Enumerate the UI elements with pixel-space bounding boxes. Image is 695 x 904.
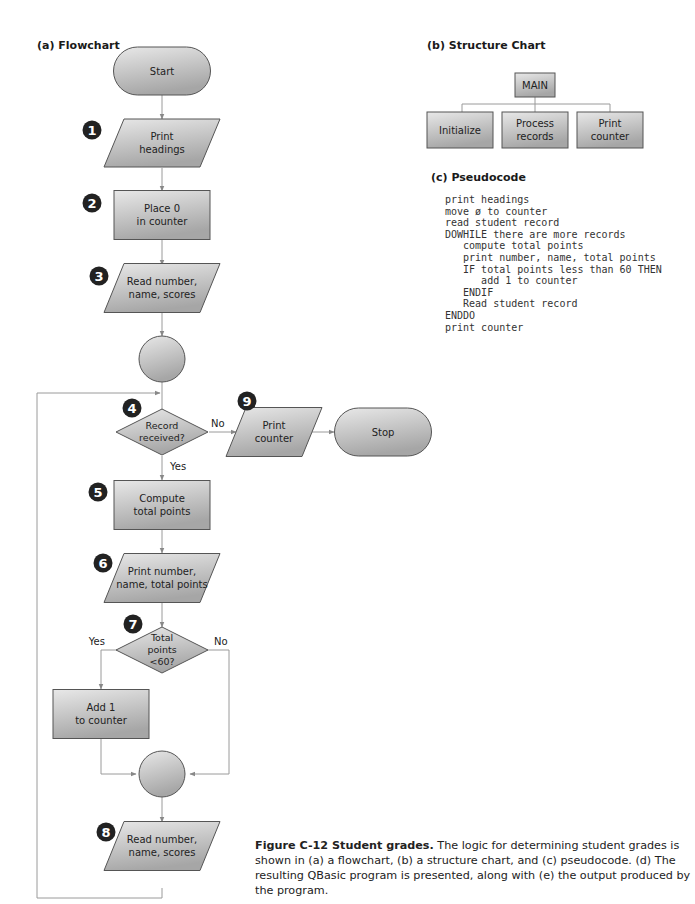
step-6-print-number-text: name, total points [116,579,207,590]
structure-link-initialize [462,96,535,112]
step-add-one-to-counter-text: Add 1 [87,702,116,713]
step-badge-number: 6 [98,556,107,571]
step-badge-number: 1 [87,123,96,138]
step-4-record-received-text: received? [139,432,185,443]
step-badge-number: 4 [127,401,136,416]
loop-connector-top [139,336,185,382]
step-8-read-record-text: Read number, [127,834,198,845]
step-3-read-record-text: Read number, [127,276,198,287]
diagram-canvas: StartPrintheadings1Place 0in counter2Rea… [0,0,695,904]
loop-connector-bottom [139,751,185,797]
pseudocode-block: print headings move ø to counter read st… [445,194,662,333]
arrow-7-no-to-connector [190,650,229,774]
decision-7-no-label: No [214,636,228,647]
step-badge-number: 9 [242,394,251,409]
step-1-print-headings-text: headings [139,144,185,155]
step-3-read-record-text: name, scores [129,289,196,300]
step-badge-number: 5 [93,485,102,500]
structure-link-print [535,104,610,112]
step-badge-number: 2 [87,196,96,211]
step-1-print-headings-text: Print [150,131,173,142]
step-5-compute-total-text: Compute [139,493,185,504]
structure-process-records-box-text: records [516,131,553,142]
start-terminal-text: Start [150,66,175,77]
step-9-print-counter-text: Print [262,420,285,431]
figure-caption: Figure C-12 Student grades. The logic fo… [255,838,695,898]
decision-7-yes-label: Yes [88,636,105,647]
step-6-print-number-text: Print number, [128,566,196,577]
step-badge-number: 3 [94,269,103,284]
step-8-read-record-text: name, scores [129,847,196,858]
step-4-record-received-text: Record [146,420,179,431]
shapes: StartPrintheadings1Place 0in counter2Rea… [53,47,643,871]
structure-print-counter-box-text: Print [598,118,621,129]
step-9-print-counter-text: counter [255,433,294,444]
step-7-total-less-60-text: <60? [149,656,174,667]
step-2-place-zero-text: Place 0 [144,203,180,214]
structure-process-records-box-text: Process [516,118,554,129]
caption-title: Figure C-12 Student grades. [255,839,434,852]
step-2-place-zero-text: in counter [137,216,189,227]
structure-main-box-text: MAIN [522,80,548,91]
decision-4-yes-label: Yes [169,461,186,472]
step-badge-number: 7 [128,617,137,632]
arrow-7-yes-to-add [101,650,118,689]
step-badge-number: 8 [101,825,110,840]
step-7-total-less-60-text: Total [150,632,173,643]
arrow-add-to-connector [101,739,136,774]
stop-terminal-text: Stop [372,427,395,438]
step-add-one-to-counter-text: to counter [75,715,128,726]
structure-print-counter-box-text: counter [591,131,630,142]
step-5-compute-total-text: total points [134,506,191,517]
structure-initialize-box-text: Initialize [439,125,481,136]
decision-4-no-label: No [211,418,225,429]
step-7-total-less-60-text: points [147,644,176,655]
